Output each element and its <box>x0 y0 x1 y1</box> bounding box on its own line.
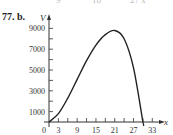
y-axis-label: V <box>40 13 47 23</box>
y-tick-label: 3000 <box>29 87 45 96</box>
y-tick-label: 5000 <box>29 66 45 75</box>
x-tick-label: 27 <box>130 126 138 135</box>
chart: xV1000300050007000900003915212733 <box>0 0 173 135</box>
y-tick-label: 7000 <box>29 45 45 54</box>
volume-curve <box>49 30 143 122</box>
x-tick-label: 21 <box>111 126 119 135</box>
x-tick-label: 3 <box>56 126 60 135</box>
y-axis-arrow-icon <box>47 14 51 20</box>
y-tick-label: 9000 <box>29 24 45 33</box>
x-axis-label: x <box>163 117 168 127</box>
y-tick-label: 1000 <box>29 108 45 117</box>
x-tick-label: 9 <box>75 126 79 135</box>
x-tick-label: 33 <box>148 126 156 135</box>
x-tick-label: 15 <box>92 126 100 135</box>
x-tick-label: 0 <box>42 126 46 135</box>
